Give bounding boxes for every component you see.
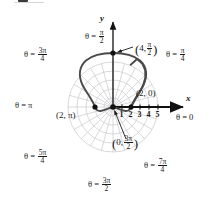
fraction-pi-over-4: π 4 [180,47,186,64]
theta-symbol: θ [85,31,89,41]
point-label-4-pi-over-2: (4, π 2 ) [135,41,157,58]
point-4-pi-over-2 [110,50,115,55]
leader-top-point [118,47,134,52]
fraction-denominator: 2 [99,37,105,45]
point-0-3pi-over-2 [110,104,116,110]
equals-sign: = [30,151,35,161]
y-axis-label: y [100,13,104,23]
theta-label-5pi-over-4: θ = 5π 4 [24,149,48,166]
x-axis-label: x [186,93,191,103]
x-tick-2: 2 [129,110,133,119]
point-label-2-0: (2, 0) [136,89,156,98]
theta-label-0: θ = 0 [176,113,193,122]
equals-sign: = [172,49,177,59]
fraction-denominator: 2 [124,143,134,151]
theta-label-pi-over-2: θ = π 2 [85,29,105,46]
fraction-denominator: 2 [147,49,153,57]
x-tick-1: 1 [120,110,124,119]
theta-symbol: θ [88,179,92,189]
point-label-2-pi: (2, π) [56,111,76,120]
x-tick-5: 5 [156,110,160,119]
close-paren: ) [153,42,157,57]
point-label-0-3pi-over-2: (0, 3π 2 ) [112,135,138,152]
fraction-3pi-over-4: 3π 4 [38,47,48,64]
theta-label-7pi-over-4: θ = 7π 4 [144,158,168,175]
fraction-denominator: 2 [102,185,112,193]
x-tick-4: 4 [147,110,151,119]
x-tick-3: 3 [138,110,142,119]
theta-label-pi: θ = π [15,101,32,110]
fraction-denominator: 4 [158,166,168,174]
equals-sign: = [94,179,99,189]
theta-symbol: θ [24,151,28,161]
fraction-7pi-over-4: 7π 4 [158,158,168,175]
fraction-denominator: 4 [38,157,48,165]
theta-label-3pi-over-2: θ = 3π 2 [88,177,112,194]
close-paren: ) [134,136,138,151]
theta-symbol: θ [144,160,148,170]
theta-symbol: θ [166,49,170,59]
fraction-3pi-over-2: 3π 2 [124,135,134,152]
theta-label-3pi-over-4: θ = 3π 4 [24,47,48,64]
r-value: 0, [116,137,123,147]
equals-sign: = [30,49,35,59]
fraction-denominator: 4 [180,55,186,63]
point-2-pi [92,104,97,109]
x-axis [113,105,183,110]
fraction-pi-over-2: π 2 [99,29,105,46]
fraction-pi-over-2: π 2 [147,41,153,58]
fraction-denominator: 4 [38,55,48,63]
fraction-3pi-over-2: 3π 2 [102,177,112,194]
theta-label-pi-over-4: θ = π 4 [166,47,186,64]
fraction-5pi-over-4: 5π 4 [38,149,48,166]
equals-sign: = [91,31,96,41]
r-value: 4, [139,43,146,53]
theta-symbol: θ [24,49,28,59]
equals-sign: = [150,160,155,170]
point-2-0 [128,104,133,109]
